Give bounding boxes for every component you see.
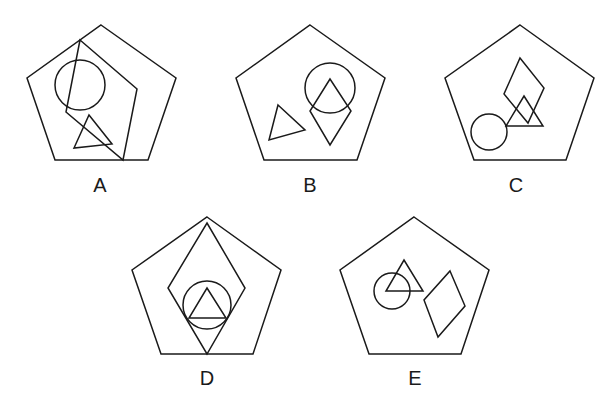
triangle-shape [386,260,423,291]
triangle-shape [506,96,543,126]
diamond-shape [504,58,544,123]
circle-shape [471,114,507,150]
triangle-shape [269,105,305,140]
option-label-d: D [200,367,214,389]
option-e: E [340,217,489,389]
option-label-e: E [408,367,421,389]
option-label-a: A [93,174,107,196]
option-d: D [132,217,281,389]
option-b: B [236,25,385,196]
diamond-shape [310,79,351,145]
diamond-shape [424,271,465,337]
option-label-c: C [509,174,523,196]
triangle-shape [189,288,226,318]
option-a: A [27,25,176,196]
pentagon-outline [132,217,281,354]
figure-canvas: A B C D E [0,0,616,402]
option-label-b: B [303,174,316,196]
option-c: C [445,25,594,196]
pentagon-outline [445,25,594,160]
circle-shape [55,60,105,110]
pentagon-outline [236,25,385,160]
pentagon-outline [27,25,176,160]
triangle-shape [74,115,112,148]
pentagon-outline [340,217,489,354]
